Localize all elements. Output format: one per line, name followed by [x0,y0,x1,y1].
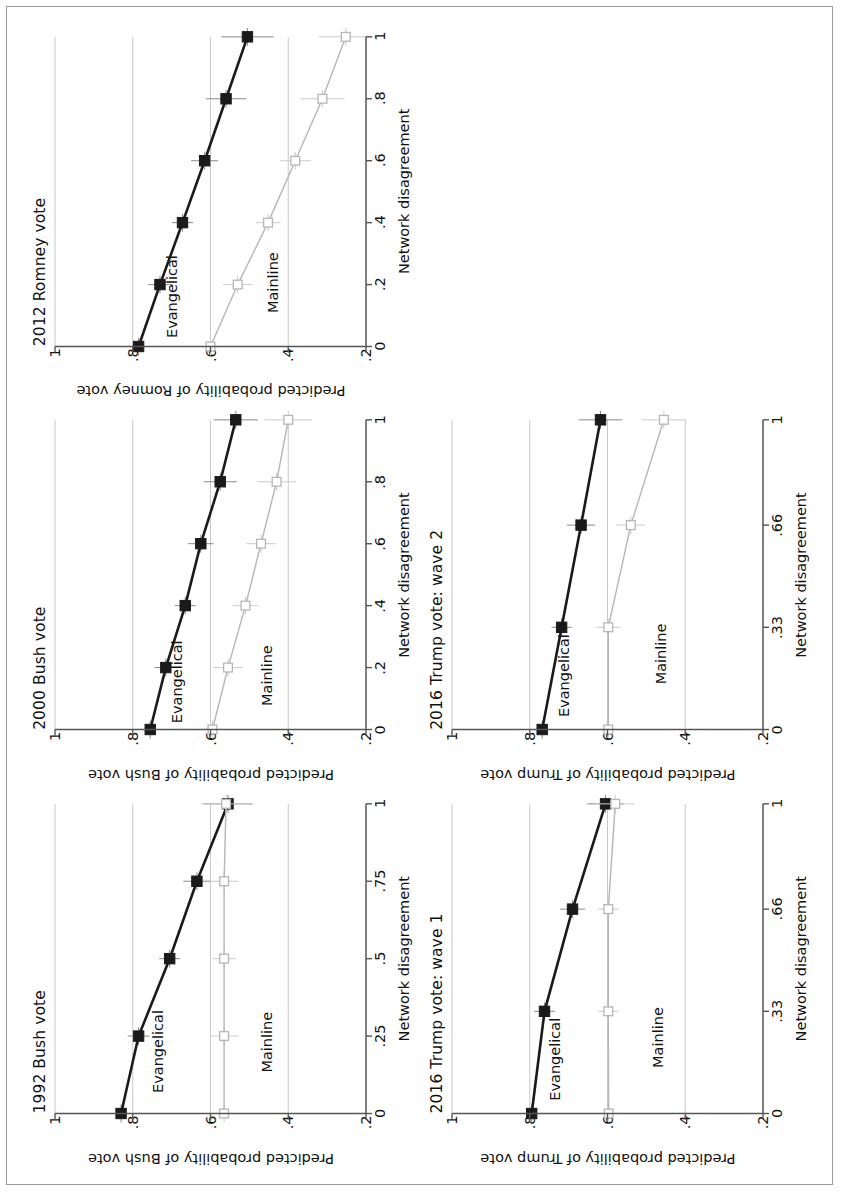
x-tick: .66 [769,897,785,920]
y-tick-labels: .2.4.6.81 [452,1115,763,1159]
series-label-evangelical: Evangelical [150,1010,166,1093]
y-tick: .2 [358,348,374,388]
x-tick: .4 [372,598,388,612]
x-tick: .33 [769,999,785,1022]
y-tick: .6 [599,731,615,771]
x-tick: 0 [372,725,388,734]
x-tick: .6 [372,536,388,550]
rotated-figure: 1992 Bush votePredicted probability of B… [21,14,821,1179]
plot-area: EvangelicalMainline [452,803,763,1113]
y-tick: .8 [124,348,140,388]
y-tick: .6 [202,731,218,771]
y-tick-labels: .2.4.6.81 [55,1115,366,1159]
series-label-evangelical: Evangelical [169,640,185,723]
series-label-mainline: Mainline [650,1007,666,1068]
y-tick: .4 [677,731,693,771]
panel-title: 2016 Trump vote: wave 2 [428,529,446,729]
y-tick-labels: .2.4.6.81 [55,731,366,775]
panel-title: 1992 Bush vote [31,990,49,1113]
chart-svg [55,420,366,730]
y-tick: .2 [358,731,374,771]
plot-area: EvangelicalMainline [55,420,366,730]
x-tick-labels: 0.25.5.751 [372,803,392,1113]
y-tick: .4 [280,731,296,771]
x-tick: 1 [769,798,785,807]
y-tick: .6 [599,1115,615,1155]
x-axis-label: Network disagreement [394,420,414,730]
series-label-evangelical: Evangelical [547,1017,563,1100]
x-tick: .2 [372,277,388,291]
x-axis-label: Network disagreement [791,420,811,730]
x-tick: .4 [372,215,388,229]
x-axis-label: Network disagreement [394,803,414,1113]
x-tick: 0 [769,1108,785,1117]
chart-svg [55,36,366,346]
panel-2016-trump-wave-1: 2016 Trump vote: wave 1Predicted probabi… [426,795,815,1169]
panel-title: 2016 Trump vote: wave 1 [428,913,446,1113]
series-label-evangelical: Evangelical [555,634,571,717]
empty-panel-slot [426,28,815,402]
y-tick: .8 [124,731,140,771]
x-tick: .66 [769,513,785,536]
series-label-mainline: Mainline [258,645,274,706]
y-tick: .2 [358,1115,374,1155]
x-tick: 1 [372,31,388,40]
x-tick: 0 [372,1108,388,1117]
x-tick: .8 [372,91,388,105]
panel-title: 2012 Romney vote [31,197,49,345]
x-tick: 1 [769,415,785,424]
y-tick: 1 [47,731,63,771]
series-label-mainline: Mainline [264,252,280,313]
y-tick: .2 [755,731,771,771]
y-tick: .6 [202,1115,218,1155]
chart-svg [452,420,763,730]
chart-svg [55,803,366,1113]
y-tick-labels: .2.4.6.81 [452,731,763,775]
y-tick: 1 [444,1115,460,1155]
x-tick: 1 [372,798,388,807]
x-tick: .33 [769,616,785,639]
series-label-mainline: Mainline [653,623,669,684]
plot-area: EvangelicalMainline [55,36,366,346]
y-tick: 1 [47,348,63,388]
y-tick: .8 [124,1115,140,1155]
x-tick-labels: 0.2.4.6.81 [372,420,392,730]
x-tick: 1 [372,415,388,424]
plot-area: EvangelicalMainline [452,420,763,730]
figure-page: 1992 Bush votePredicted probability of B… [0,0,841,1193]
chart-svg [452,803,763,1113]
x-tick: 0 [769,725,785,734]
y-tick: .2 [755,1115,771,1155]
series-label-evangelical: Evangelical [163,255,179,338]
x-tick: .8 [372,474,388,488]
plot-area: EvangelicalMainline [55,803,366,1113]
x-tick: .2 [372,660,388,674]
series-label-mainline: Mainline [258,1011,274,1072]
x-tick: .25 [372,1024,388,1047]
x-axis-label: Network disagreement [394,36,414,346]
panel-2000-bush-vote: 2000 Bush votePredicted probability of B… [29,412,418,786]
y-tick: .8 [521,1115,537,1155]
y-tick: .8 [521,731,537,771]
panel-grid: 1992 Bush votePredicted probability of B… [21,14,821,1179]
y-tick: .4 [280,1115,296,1155]
x-tick: .6 [372,153,388,167]
x-tick: .5 [372,951,388,965]
panel-title: 2000 Bush vote [31,606,49,729]
panel-2016-trump-wave-2: 2016 Trump vote: wave 2Predicted probabi… [426,412,815,786]
y-tick: .4 [280,348,296,388]
y-tick: .4 [677,1115,693,1155]
x-tick-labels: 0.33.661 [769,420,789,730]
y-tick: 1 [47,1115,63,1155]
x-tick: 0 [372,341,388,350]
panel-2012-romney-vote: 2012 Romney votePredicted probability of… [29,28,418,402]
x-tick-labels: 0.33.661 [769,803,789,1113]
y-tick: 1 [444,731,460,771]
x-tick-labels: 0.2.4.6.81 [372,36,392,346]
panel-1992-bush-vote: 1992 Bush votePredicted probability of B… [29,795,418,1169]
x-tick: .75 [372,869,388,892]
x-axis-label: Network disagreement [791,803,811,1113]
